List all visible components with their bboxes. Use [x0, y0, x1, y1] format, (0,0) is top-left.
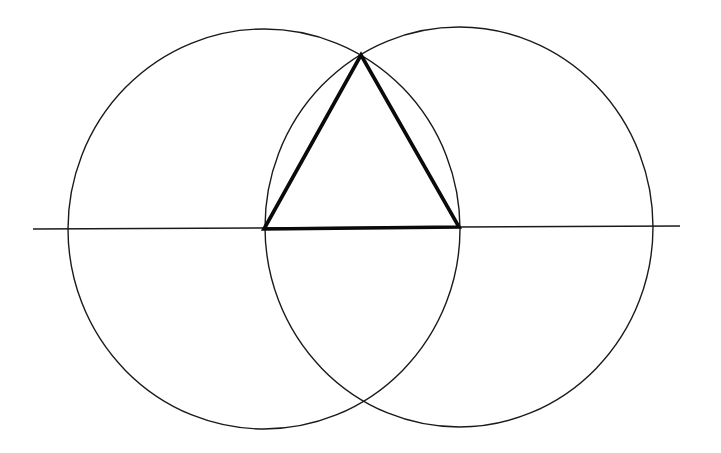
- equilateral-triangle: [264, 55, 459, 229]
- equilateral-triangle-construction: [0, 0, 721, 453]
